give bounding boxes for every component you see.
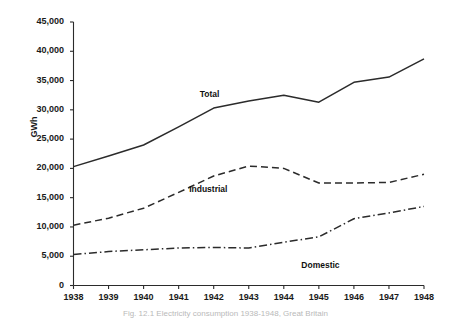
y-tick-label: 5,000 xyxy=(18,250,64,260)
x-tick-label: 1940 xyxy=(124,292,164,302)
x-tick-label: 1942 xyxy=(194,292,234,302)
x-tick-label: 1939 xyxy=(89,292,129,302)
series-line-total xyxy=(74,59,425,167)
x-tick-label: 1943 xyxy=(229,292,269,302)
x-tick-label: 1945 xyxy=(299,292,339,302)
figure-caption: Fig. 12.1 Electricity consumption 1938-1… xyxy=(0,309,451,318)
series-line-industrial xyxy=(74,166,425,225)
y-tick-label: 40,000 xyxy=(18,45,64,55)
series-line-domestic xyxy=(74,206,425,254)
chart-figure: GWh Fig. 12.1 Electricity consumption 19… xyxy=(0,0,451,321)
x-tick-label: 1938 xyxy=(54,292,94,302)
series-label-industrial: Industrial xyxy=(189,184,227,194)
line-chart-plot xyxy=(0,0,451,321)
series-label-total: Total xyxy=(200,89,220,99)
y-tick-label: 25,000 xyxy=(18,133,64,143)
y-tick-label: 45,000 xyxy=(18,16,64,26)
series-label-domestic: Domestic xyxy=(301,260,339,270)
y-tick-label: 15,000 xyxy=(18,192,64,202)
y-tick-label: 20,000 xyxy=(18,162,64,172)
x-tick-label: 1941 xyxy=(159,292,199,302)
y-tick-label: 35,000 xyxy=(18,75,64,85)
x-tick-label: 1946 xyxy=(334,292,374,302)
y-tick-label: 0 xyxy=(18,280,64,290)
x-tick-label: 1944 xyxy=(264,292,304,302)
y-tick-label: 10,000 xyxy=(18,221,64,231)
x-tick-label: 1947 xyxy=(369,292,409,302)
x-tick-label: 1948 xyxy=(404,292,444,302)
y-tick-label: 30,000 xyxy=(18,104,64,114)
